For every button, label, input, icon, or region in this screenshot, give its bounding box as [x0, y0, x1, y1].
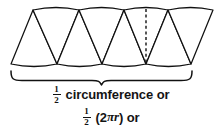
caption-block: 1 2 circumference or 1 2 (2 π r ) or — [0, 84, 222, 128]
caption-line-half-circumference: 1 2 circumference or — [0, 84, 222, 105]
fraction-denominator-2: 2 — [83, 118, 90, 127]
caption-formula-prefix: (2 — [96, 110, 107, 125]
caption-formula-suffix: ) or — [119, 110, 140, 125]
caption-text-circumference: circumference or — [66, 87, 170, 102]
sector-band — [11, 8, 213, 67]
fraction-numerator-2: 1 — [83, 107, 90, 116]
geometry-figure: 1 2 circumference or 1 2 (2 π r ) or — [0, 0, 222, 128]
fraction-denominator-1: 2 — [53, 96, 60, 105]
fraction-numerator-1: 1 — [53, 85, 60, 94]
fraction-one-half-2: 1 2 — [83, 107, 91, 127]
caption-line-two-pi-r: 1 2 (2 π r ) or — [0, 106, 222, 128]
pi-symbol: π — [107, 109, 114, 125]
half-circumference-brace — [11, 71, 192, 85]
fraction-one-half-1: 1 2 — [53, 85, 61, 105]
